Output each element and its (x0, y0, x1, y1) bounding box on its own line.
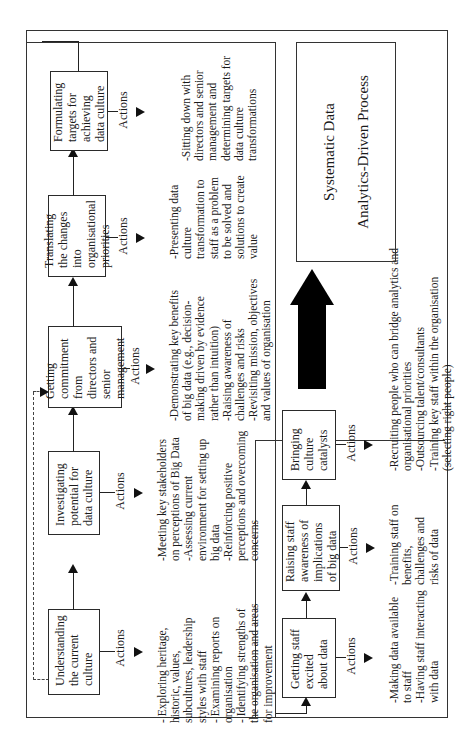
connector-line (73, 283, 74, 327)
step-bringing-culture-catalysts: Bringing culture catalysts (282, 410, 336, 480)
step-label: Translating the changes into organisatio… (42, 200, 112, 268)
step-formulating-targets: Formulating targets for achieving data c… (50, 71, 108, 151)
actions-text: -Recruiting people who can bridge analyt… (388, 211, 454, 471)
connector-line (73, 154, 74, 196)
arrow-down-icon (366, 543, 375, 553)
arrow-right-icon (301, 697, 311, 706)
arrow-right-icon (68, 277, 78, 286)
actions-label: Actions (128, 341, 143, 391)
actions-text: -Demonstrating key benefits of big data … (168, 241, 274, 421)
arrow-right-icon (301, 480, 311, 489)
actions-label: Actions (116, 85, 131, 135)
outcome-line1: Systematic Data (312, 43, 346, 261)
step-label: Formulating targets for achieving data c… (51, 80, 107, 142)
feedback-line-horizontal (33, 392, 34, 680)
actions-text: -Presenting data culture transformation … (168, 149, 260, 259)
arrow-down-icon (146, 364, 155, 374)
actions-label: Actions (116, 211, 131, 261)
step-label: Getting commitment from directors and se… (43, 335, 127, 399)
connector-line (306, 598, 307, 618)
step-label: Getting staff excited about data (288, 627, 330, 689)
connector-line (276, 713, 306, 714)
arrow-right-icon (301, 592, 311, 601)
actions-label: Actions (344, 631, 359, 681)
step-getting-commitment: Getting commitment from directors and se… (48, 326, 122, 408)
step-translating-changes: Translating the changes into organisatio… (48, 195, 106, 277)
step-investigating-potential: Investigating potential for data culture (48, 451, 100, 535)
arrow-right-icon (68, 564, 78, 573)
actions-label: Actions (113, 466, 128, 516)
step-raising-staff-awareness: Raising staff awareness of implications … (282, 505, 340, 591)
outcome-line2: Analytics-Driven Process (346, 43, 380, 261)
step-label: Investigating potential for data culture (53, 460, 95, 526)
arrow-down-icon (364, 440, 373, 450)
outcome-box: Systematic Data Analytics-Driven Process (296, 42, 396, 262)
actions-text: -Training staff on benefits, challenges … (388, 465, 441, 585)
arrow-down-icon (134, 488, 143, 498)
actions-label: Actions (113, 623, 128, 673)
feedback-line-vertical (33, 679, 49, 680)
connector-line (73, 412, 74, 452)
step-understanding-culture: Understanding the current culture (48, 609, 100, 695)
arrow-down-icon (134, 647, 143, 657)
connector-line (73, 570, 74, 610)
actions-label: Actions (344, 418, 359, 468)
connector-line (78, 41, 79, 71)
step-getting-staff-excited: Getting staff excited about data (282, 618, 336, 698)
arrow-down-icon (364, 653, 373, 663)
arrow-down-icon (136, 233, 145, 243)
step-label: Raising staff awareness of implications … (283, 514, 339, 582)
big-arrow-right-icon (290, 269, 334, 389)
actions-text: - Exploring heritage, historic, values, … (156, 573, 275, 723)
data-culture-process-diagram: Understanding the current culture Action… (0, 0, 460, 751)
connector-line (42, 41, 78, 42)
step-label: Bringing culture catalysts (288, 419, 330, 471)
step-label: Understanding the current culture (53, 615, 95, 686)
arrow-down-icon (136, 107, 145, 117)
actions-text: -Sitting down with directors and senior … (180, 41, 259, 161)
actions-label: Actions (346, 521, 361, 571)
